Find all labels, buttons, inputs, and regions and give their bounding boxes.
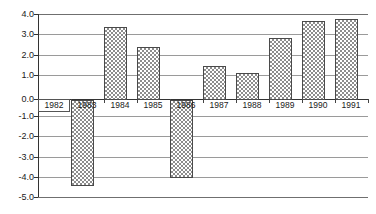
y-tick-mark bbox=[34, 197, 38, 198]
y-tick-label: 1.0 bbox=[0, 71, 34, 80]
x-label-1988: 1988 bbox=[234, 101, 270, 110]
y-tick-mark bbox=[34, 177, 38, 178]
x-label-1982: 1982 bbox=[38, 99, 70, 112]
y-tick-mark bbox=[34, 116, 38, 117]
y-tick-label: -1.0 bbox=[0, 112, 34, 121]
x-label-1984: 1984 bbox=[102, 101, 138, 110]
y-tick-label: 2.0 bbox=[0, 51, 34, 60]
bar-chart: 4.0 3.0 2.0 1.0 0.0 -1.0 -2.0 -3.0 -4.0 … bbox=[0, 0, 376, 214]
y-tick-mark bbox=[34, 75, 38, 76]
bar-1984 bbox=[104, 27, 127, 100]
y-tick-mark bbox=[34, 157, 38, 158]
y-tick-label: -5.0 bbox=[0, 193, 34, 202]
y-tick-label: -3.0 bbox=[0, 153, 34, 162]
x-label-1989: 1989 bbox=[267, 101, 303, 110]
y-tick-label: 0.0 bbox=[0, 95, 34, 104]
y-tick-label: 4.0 bbox=[0, 10, 34, 19]
y-tick-mark bbox=[34, 14, 38, 15]
gridline-4 bbox=[38, 14, 368, 15]
bar-1990 bbox=[302, 21, 325, 100]
x-label-1987: 1987 bbox=[201, 101, 237, 110]
bar-1989 bbox=[269, 38, 292, 100]
bar-1985 bbox=[137, 47, 160, 100]
x-label-1990: 1990 bbox=[300, 101, 336, 110]
x-label-1986: 1986 bbox=[168, 101, 204, 110]
bar-1986 bbox=[170, 100, 193, 178]
y-tick-label: 3.0 bbox=[0, 30, 34, 39]
gridline-neg5 bbox=[38, 197, 368, 198]
x-label-1983: 1983 bbox=[69, 101, 105, 110]
bar-1987 bbox=[203, 66, 226, 100]
y-tick-label: -4.0 bbox=[0, 173, 34, 182]
x-label-1985: 1985 bbox=[135, 101, 171, 110]
bar-1988 bbox=[236, 73, 259, 100]
y-tick-mark bbox=[34, 55, 38, 56]
y-tick-mark bbox=[34, 34, 38, 35]
bar-1991 bbox=[335, 19, 358, 100]
x-label-1991: 1991 bbox=[333, 101, 369, 110]
y-tick-mark bbox=[34, 136, 38, 137]
bar-1983 bbox=[71, 100, 94, 186]
y-tick-label: -2.0 bbox=[0, 132, 34, 141]
